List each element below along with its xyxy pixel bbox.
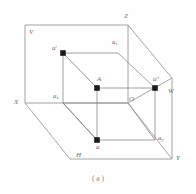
label-point-a: a xyxy=(96,144,100,151)
label-intercept-az-sub: z xyxy=(116,41,118,46)
point-marker-A xyxy=(94,85,100,91)
label-plane-h: H xyxy=(76,152,81,159)
projection-figure: V Z W X Y H O A a′ a″ a az ax ay ( a ) xyxy=(0,0,196,194)
label-point-a-double-prime: a″ xyxy=(153,76,159,83)
label-origin: O xyxy=(129,96,134,103)
point-marker-a-prime xyxy=(60,50,66,56)
prime-mark-icon: ′ xyxy=(56,44,57,52)
point-marker-a-double-prime xyxy=(152,85,158,91)
inner-box-right-edge xyxy=(97,88,155,140)
label-plane-w: W xyxy=(168,88,174,95)
label-intercept-ay: ay xyxy=(158,135,164,143)
figure-caption: ( a ) xyxy=(0,174,196,183)
inner-box-left-edge xyxy=(63,53,97,140)
label-intercept-ay-sub: y xyxy=(162,137,164,142)
plane-w-outline xyxy=(128,25,172,159)
label-intercept-ax-sub: x xyxy=(57,95,59,100)
label-axis-y: Y xyxy=(176,155,180,162)
label-axis-x: X xyxy=(14,99,18,106)
label-point-a-prime: a′ xyxy=(52,45,57,52)
depth-diagonals xyxy=(63,25,155,140)
double-prime-mark-icon: ″ xyxy=(157,75,160,83)
label-axis-z: Z xyxy=(124,13,128,20)
label-point-A: A xyxy=(97,76,101,83)
label-plane-v: V xyxy=(29,29,33,36)
label-intercept-az: az xyxy=(112,39,117,47)
plane-v-outline xyxy=(25,25,128,103)
point-marker-a xyxy=(94,137,100,143)
label-intercept-ax: ax xyxy=(53,93,59,101)
inner-box-top xyxy=(63,53,155,88)
